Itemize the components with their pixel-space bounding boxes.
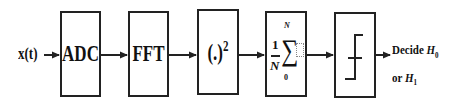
hypothesis-h0-sub: 0 [435,51,439,61]
hypothesis-h0-var: H [427,42,436,56]
input-signal-label: x(t) [18,44,38,65]
adc-block: ADC [60,11,101,97]
square-block: (.)2 [197,9,239,95]
hypothesis-h1-sub: 1 [414,78,418,88]
square-operator: (.) [207,40,223,66]
hypothesis-h1-var: H [405,70,414,84]
or-text: or [392,70,405,84]
decide-text: Decide [392,42,427,56]
adc-block-label: ADC [62,41,99,68]
threshold-block [334,12,376,98]
fraction-bar [271,55,280,57]
decision-line-2: or H1 [392,64,439,97]
square-block-label: (.)2 [199,37,237,66]
fft-block-label: FFT [130,41,167,68]
sum-lower-limit: 0 [284,73,288,82]
sum-upper-limit: N [284,21,290,30]
fft-block: FFT [128,11,169,97]
threshold-step-icon [336,14,378,100]
signal-detection-block-diagram: x(t) ADC FFT (.)2 1 N N ∑ 0 Decide H0 [0,0,454,107]
fraction-denominator: N [270,58,279,74]
average-sum-block: 1 N N ∑ 0 [265,11,307,97]
placeholder-box-icon [296,43,304,57]
fraction-numerator: 1 [272,37,279,53]
square-exponent: 2 [223,37,229,53]
decision-output-label: Decide H0 or H1 [392,36,439,96]
